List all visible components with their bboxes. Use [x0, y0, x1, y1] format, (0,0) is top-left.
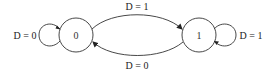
transition-0-to-1: D = 1 [92, 1, 182, 29]
transition-1-to-1: D = 1 [214, 24, 262, 46]
state-1: 1 [182, 18, 216, 52]
transition-0-0-label: D = 0 [14, 30, 37, 41]
diagram-svg: 0 1 D = 0 D = 1 D = 0 D = 1 [0, 0, 274, 76]
transition-1-0-label: D = 0 [126, 60, 149, 71]
state-0: 0 [59, 18, 93, 52]
state-0-label: 0 [74, 30, 79, 41]
transition-1-to-0: D = 0 [93, 42, 183, 71]
arc-0-1 [92, 15, 182, 29]
state-diagram: 0 1 D = 0 D = 1 D = 0 D = 1 [0, 0, 274, 76]
transition-0-1-label: D = 1 [126, 1, 149, 12]
transition-1-1-label: D = 1 [240, 30, 263, 41]
arc-1-0 [93, 42, 183, 56]
state-1-label: 1 [197, 30, 202, 41]
transition-0-to-0: D = 0 [14, 24, 61, 46]
